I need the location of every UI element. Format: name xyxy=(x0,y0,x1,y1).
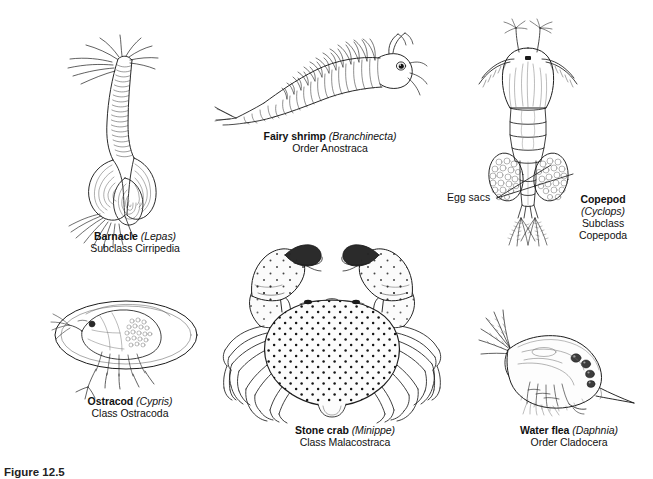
stone-crab-taxon: Class Malacostraca xyxy=(250,436,440,448)
ostracod-common-name: Ostracod xyxy=(88,395,134,407)
figure-root: Barnacle (Lepas) Subclass Cirripedia xyxy=(0,0,653,479)
copepod-common-name: Copepod xyxy=(553,193,653,205)
water-flea-taxon: Order Cladocera xyxy=(485,436,653,448)
stone-crab-label: Stone crab (Minippe) Class Malacostraca xyxy=(250,424,440,448)
barnacle-genus: (Lepas) xyxy=(141,230,176,242)
water-flea-common-name: Water flea xyxy=(520,424,569,436)
copepod-taxon-line-2: Copepoda xyxy=(553,229,653,241)
ostracod-genus: (Cypris) xyxy=(136,395,172,407)
fairy-shrimp-taxon: Order Anostraca xyxy=(240,142,420,154)
ostracod-taxon: Class Ostracoda xyxy=(40,407,220,419)
barnacle-illustration xyxy=(42,26,192,226)
water-flea-label: Water flea (Daphnia) Order Cladocera xyxy=(485,424,653,448)
fairy-shrimp-label: Fairy shrimp (Branchinecta) Order Anostr… xyxy=(240,130,420,154)
stone-crab-common-name: Stone crab xyxy=(295,424,349,436)
copepod-genus: (Cyclops) xyxy=(553,205,653,217)
fairy-shrimp-common-name: Fairy shrimp xyxy=(264,130,326,142)
egg-sacs-text: Egg sacs xyxy=(447,191,490,203)
barnacle-common-name: Barnacle xyxy=(94,230,138,242)
fairy-shrimp-genus: (Branchinecta) xyxy=(329,130,397,142)
water-flea-illustration xyxy=(478,300,643,420)
copepod-label: Copepod (Cyclops) Subclass Copepoda xyxy=(553,193,653,241)
water-flea-genus: (Daphnia) xyxy=(572,424,618,436)
egg-sacs-callout-label: Egg sacs xyxy=(447,191,490,203)
figure-caption-number: Figure 12.5 xyxy=(4,466,65,478)
figure-caption: Figure 12.5 xyxy=(4,466,184,479)
copepod-taxon-line-1: Subclass xyxy=(553,217,653,229)
stone-crab-illustration xyxy=(222,238,442,423)
ostracod-illustration xyxy=(40,292,215,392)
stone-crab-genus: (Minippe) xyxy=(352,424,395,436)
barnacle-label: Barnacle (Lepas) Subclass Cirripedia xyxy=(40,230,230,254)
fairy-shrimp-illustration xyxy=(212,30,427,125)
barnacle-taxon: Subclass Cirripedia xyxy=(40,242,230,254)
ostracod-label: Ostracod (Cypris) Class Ostracoda xyxy=(40,395,220,419)
